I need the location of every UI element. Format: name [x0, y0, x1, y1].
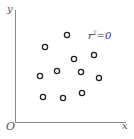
x-axis-label: x	[122, 120, 128, 131]
data-point	[40, 94, 45, 99]
y-axis-label: y	[7, 3, 13, 14]
data-points	[37, 32, 101, 100]
data-point	[96, 75, 101, 80]
data-point	[78, 69, 83, 74]
data-point	[64, 32, 69, 37]
data-point	[71, 56, 76, 61]
r-squared-annotation: r2=0	[88, 29, 111, 41]
data-point	[91, 52, 96, 57]
data-point	[37, 73, 42, 78]
data-point	[60, 95, 65, 100]
scatter-plot	[0, 0, 134, 139]
data-point	[79, 90, 84, 95]
data-point	[42, 44, 47, 49]
data-point	[54, 68, 59, 73]
origin-label: O	[6, 120, 15, 133]
